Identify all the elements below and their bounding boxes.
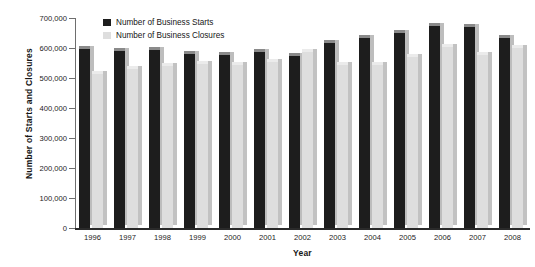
bar-side-shadow [348, 62, 352, 225]
bar-starts-2001 [254, 52, 266, 228]
bar-closures-1998 [162, 66, 174, 228]
bar-face [464, 27, 476, 228]
bar-starts-2008 [499, 38, 511, 228]
bar-top-face [232, 62, 244, 65]
bar-top-face [512, 45, 524, 48]
bar-top-face [149, 47, 161, 50]
bar-side-shadow [138, 66, 142, 225]
x-axis-line [75, 228, 530, 230]
bar-top-face [184, 51, 196, 54]
bar-face [407, 57, 419, 228]
bar-group [285, 18, 320, 228]
bar-closures-1997 [127, 69, 139, 228]
y-axis-tick-label: 200,000 [19, 164, 67, 173]
bar-side-shadow [173, 63, 177, 225]
bar-closures-1996 [92, 74, 104, 228]
bar-starts-2006 [429, 26, 441, 229]
y-axis-tick-label: 0 [19, 224, 67, 233]
bar-top-face [162, 63, 174, 66]
bar-group [320, 18, 355, 228]
legend-label: Number of Business Starts [116, 18, 213, 27]
bar-closures-2006 [442, 47, 454, 228]
bar-side-shadow [243, 62, 247, 225]
x-axis-tick-labels: 1996199719981999200020012002200320042005… [75, 231, 530, 247]
bar-starts-2002 [289, 56, 301, 228]
y-axis-tick-label: 600,000 [19, 44, 67, 53]
bar-starts-2005 [394, 33, 406, 228]
bar-face [442, 47, 454, 228]
x-axis-tick-label: 2006 [425, 231, 460, 247]
y-axis-tick-label: 700,000 [19, 14, 67, 23]
bar-top-face [429, 23, 441, 26]
bar-closures-2005 [407, 57, 419, 228]
bar-face [127, 69, 139, 228]
bar-top-face [197, 61, 209, 64]
bar-face [162, 66, 174, 228]
bar-face [219, 55, 231, 228]
bar-face [149, 50, 161, 228]
x-axis-tick-label: 1999 [180, 231, 215, 247]
bar-side-shadow [383, 62, 387, 225]
bar-top-face [254, 49, 266, 52]
bar-group [250, 18, 285, 228]
bar-face [512, 48, 524, 228]
bar-face [337, 65, 349, 228]
x-axis-tick-label: 2003 [320, 231, 355, 247]
x-axis-tick-label: 1997 [110, 231, 145, 247]
y-axis-tick-label: 300,000 [19, 134, 67, 143]
plot-area [75, 18, 530, 228]
bar-starts-2000 [219, 55, 231, 228]
x-axis-tick-label: 2005 [390, 231, 425, 247]
bar-face [477, 55, 489, 228]
y-axis-tick-label: 100,000 [19, 194, 67, 203]
bar-side-shadow [103, 71, 107, 225]
bar-side-shadow [488, 52, 492, 225]
x-axis-tick-label: 1996 [75, 231, 110, 247]
bar-face [289, 56, 301, 228]
legend-label: Number of Business Closures [116, 31, 224, 40]
y-axis-tick-label: 500,000 [19, 74, 67, 83]
bar-closures-2001 [267, 62, 279, 228]
bar-face [254, 52, 266, 228]
bar-top-face [114, 48, 126, 51]
bar-top-face [324, 40, 336, 43]
bar-starts-2004 [359, 38, 371, 228]
bar-top-face [499, 35, 511, 38]
bar-group [390, 18, 425, 228]
bar-group [180, 18, 215, 228]
bar-closures-2007 [477, 55, 489, 228]
x-axis-tick-label: 2007 [460, 231, 495, 247]
bar-side-shadow [523, 45, 527, 225]
bar-group [75, 18, 110, 228]
x-axis-tick-label: 2001 [250, 231, 285, 247]
bar-chart-figure: Number of Starts and Closures 0100,00020… [0, 0, 535, 267]
x-axis-tick-label: 2000 [215, 231, 250, 247]
bar-side-shadow [453, 44, 457, 225]
bar-face [184, 54, 196, 228]
y-axis-tick-labels: 0100,000200,000300,000400,000500,000600,… [17, 0, 67, 267]
x-axis-tick-label: 2008 [495, 231, 530, 247]
bar-top-face [302, 49, 314, 52]
bar-top-face [92, 71, 104, 74]
y-axis-tick-label: 400,000 [19, 104, 67, 113]
bar-side-shadow [208, 61, 212, 225]
bar-top-face [79, 46, 91, 49]
bar-closures-2003 [337, 65, 349, 228]
bar-top-face [219, 52, 231, 55]
bar-face [429, 26, 441, 229]
x-axis-tick-label: 2002 [285, 231, 320, 247]
bar-closures-2004 [372, 65, 384, 228]
bar-top-face [267, 59, 279, 62]
bar-group [110, 18, 145, 228]
bar-face [394, 33, 406, 228]
bar-face [372, 65, 384, 228]
bar-starts-1999 [184, 54, 196, 228]
bar-group [215, 18, 250, 228]
bar-face [359, 38, 371, 228]
bar-face [324, 43, 336, 228]
bar-top-face [359, 35, 371, 38]
bar-group [460, 18, 495, 228]
bar-top-face [372, 62, 384, 65]
x-axis-title: Year [75, 248, 530, 258]
bar-top-face [477, 52, 489, 55]
